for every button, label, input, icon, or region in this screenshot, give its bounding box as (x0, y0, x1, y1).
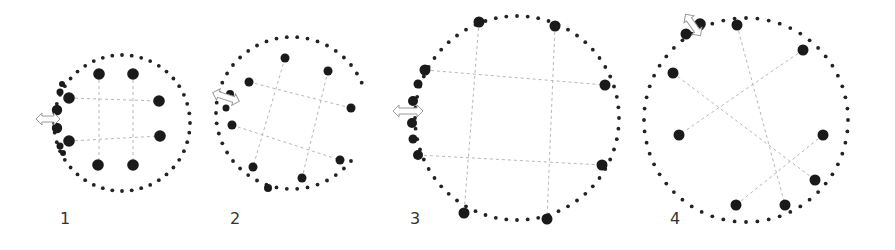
node (818, 130, 829, 141)
ring-dot (139, 56, 143, 60)
node (732, 20, 743, 31)
node (93, 68, 105, 80)
ring-dot (808, 38, 812, 42)
ring-dot (427, 167, 431, 171)
ring-dot (846, 118, 850, 122)
ring-dot (840, 84, 844, 88)
diagram-canvas: 1 2 3 4 (0, 0, 895, 250)
node (409, 135, 418, 144)
ring-dot (172, 77, 176, 81)
guide-line (302, 71, 328, 178)
node (420, 65, 431, 76)
ring-dot (92, 183, 96, 187)
ring-dot (157, 64, 161, 68)
ring-dot (844, 141, 848, 145)
ring-dot (295, 187, 299, 191)
ring-dot (285, 187, 289, 191)
node (810, 175, 821, 186)
ring-dot (778, 214, 782, 218)
ring-dot (652, 162, 656, 166)
ring-dot (464, 28, 468, 32)
ring-dot (744, 16, 748, 20)
ring-dot (355, 72, 359, 76)
ring-dot (484, 213, 488, 217)
ring-dot (767, 218, 771, 222)
ring-dot (217, 132, 221, 136)
ring-dot (672, 190, 676, 194)
ring-dot (710, 214, 714, 218)
ring-dot (306, 186, 310, 190)
ring-dot (658, 172, 662, 176)
ring-dot (767, 19, 771, 23)
node (668, 68, 679, 79)
ring-dot (177, 158, 181, 162)
panel-4 (642, 11, 850, 224)
ring-dot (645, 141, 649, 145)
ring-dot (130, 188, 134, 192)
guide-line (418, 155, 602, 165)
ring-dot (349, 159, 353, 163)
node (57, 89, 64, 96)
guide-line (232, 125, 340, 160)
node (264, 184, 272, 192)
ring-dot (231, 63, 235, 67)
node (127, 159, 139, 171)
ring-dot (583, 40, 587, 44)
ring-dot (700, 210, 704, 214)
ring-dot (648, 84, 652, 88)
ring-dot (295, 35, 299, 39)
ring-dot (615, 137, 619, 141)
node (542, 214, 553, 225)
node (249, 163, 258, 172)
ring-dot (788, 210, 792, 214)
ring-dot (101, 186, 105, 190)
node (597, 160, 608, 171)
ring-dot (255, 44, 259, 48)
node (153, 95, 165, 107)
node (336, 156, 345, 165)
panel-label-3: 3 (410, 209, 420, 228)
ring-dot (238, 56, 242, 60)
ring-dot (575, 34, 579, 38)
ring-dot (285, 35, 289, 39)
ring-dot (681, 198, 685, 202)
ring-dot (591, 184, 595, 188)
node (281, 54, 290, 63)
ring-dot (120, 53, 124, 57)
node (228, 121, 237, 130)
ring-dot (92, 59, 96, 63)
ring-dot (165, 70, 169, 74)
ring-dot (844, 95, 848, 99)
ring-dot (225, 151, 229, 155)
ring-dot (238, 167, 242, 171)
ring-dot (744, 220, 748, 224)
ring-dot (231, 159, 235, 163)
ring-dot (603, 65, 607, 69)
guide-line (737, 25, 785, 205)
guide-line (253, 58, 285, 167)
ring-dot (325, 179, 329, 183)
ring-dot (664, 182, 668, 186)
ring-dot (612, 148, 616, 152)
ring-dot (422, 158, 426, 162)
ring-dot (69, 77, 73, 81)
ring-dot (652, 74, 656, 78)
node (600, 80, 611, 91)
ring-dot (246, 173, 250, 177)
ring-dot (778, 22, 782, 26)
ring-dot (255, 179, 259, 183)
ring-dot (840, 152, 844, 156)
ring-dot (182, 149, 186, 153)
ring-dot (120, 189, 124, 193)
ring-dot (515, 14, 519, 18)
ring-dot (172, 166, 176, 170)
ring-dot (710, 22, 714, 26)
node (127, 68, 139, 80)
ring-dot (215, 101, 219, 105)
ring-dot (447, 192, 451, 196)
ring-dot (165, 173, 169, 177)
node (52, 105, 62, 115)
node (154, 130, 166, 142)
ring-dot (185, 102, 189, 106)
ring-dot (130, 54, 134, 58)
